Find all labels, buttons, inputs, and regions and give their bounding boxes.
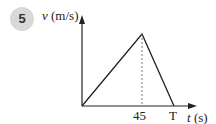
y-axis-unit: (m/s) bbox=[51, 8, 78, 23]
y-axis-label: v (m/s) bbox=[42, 8, 78, 24]
x-axis-arrow-icon bbox=[188, 103, 197, 109]
velocity-curve bbox=[82, 34, 174, 106]
x-tick-T: T bbox=[169, 108, 177, 124]
velocity-time-graph bbox=[0, 0, 216, 124]
x-axis-unit: (s) bbox=[194, 110, 208, 124]
y-axis-arrow-icon bbox=[79, 15, 85, 24]
x-axis-label: t (s) bbox=[187, 110, 208, 124]
x-tick-45: 45 bbox=[133, 108, 146, 124]
